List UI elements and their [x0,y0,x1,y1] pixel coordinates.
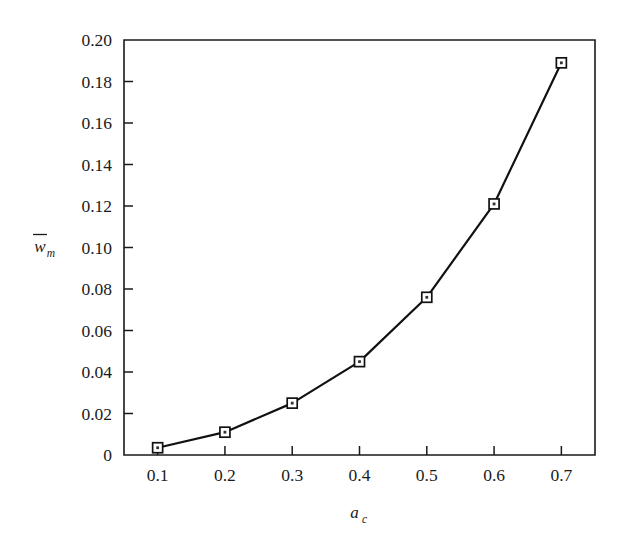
y-tick-label: 0.16 [81,113,112,133]
y-tick-label: 0.14 [81,155,112,175]
y-axis-title-base: w [34,237,46,256]
x-tick-label: 0.7 [550,465,572,485]
data-point-marker-core [425,296,428,299]
y-tick-label: 0.06 [81,321,112,341]
y-tick-label: 0.08 [81,279,112,299]
x-axis-title-base: a [350,503,359,522]
line-chart-canvas: 00.020.040.060.080.100.120.140.160.180.2… [0,0,618,545]
chart-figure: 00.020.040.060.080.100.120.140.160.180.2… [0,0,618,545]
data-point-marker-core [156,446,159,449]
x-tick-label: 0.2 [214,465,236,485]
x-tick-label: 0.4 [349,465,371,485]
data-point-marker-core [291,402,294,405]
x-tick-label: 0.5 [416,465,438,485]
data-point-marker-core [224,431,227,434]
y-tick-label: 0.04 [81,362,112,382]
y-tick-label: 0.20 [81,30,112,50]
data-point-marker-core [493,203,496,206]
y-tick-label: 0.18 [81,72,112,92]
x-tick-label: 0.1 [147,465,169,485]
y-tick-label: 0.02 [81,404,112,424]
x-tick-label: 0.3 [281,465,303,485]
data-point-marker-core [560,61,563,64]
y-axis-title-subscript: m [47,247,55,259]
x-tick-label: 0.6 [483,465,505,485]
x-axis-title-subscript: c [362,513,367,525]
data-point-marker-core [358,360,361,363]
y-tick-label: 0.10 [81,238,112,258]
y-tick-label: 0.12 [81,196,112,216]
y-tick-label: 0 [103,445,112,465]
